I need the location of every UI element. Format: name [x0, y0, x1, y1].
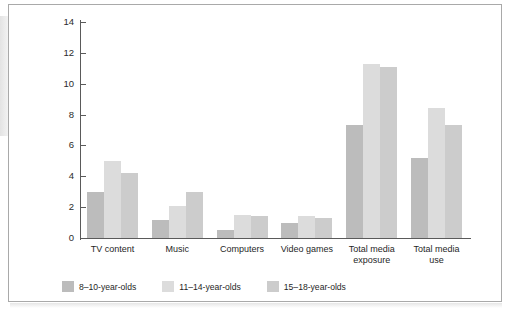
y-axis-tick-label: 0 — [0, 233, 74, 243]
bar — [186, 192, 203, 238]
bar-group-bars — [404, 22, 469, 238]
y-axis-tick-label: 6 — [0, 141, 74, 151]
legend-item[interactable]: 15–18-year-olds — [267, 281, 346, 292]
legend-swatch-icon — [267, 281, 279, 292]
category-label-line1: Total media — [387, 244, 487, 255]
legend-label: 11–14-year-olds — [179, 282, 240, 292]
y-axis-tick-label: 8 — [0, 110, 74, 120]
legend-swatch-icon — [162, 281, 174, 292]
bar — [234, 215, 251, 238]
y-axis-tick — [80, 238, 86, 239]
legend-swatch-icon — [62, 281, 74, 292]
y-axis-tick-label: 10 — [0, 79, 74, 89]
y-axis-tick-label: 14 — [0, 17, 74, 27]
bar — [87, 192, 104, 238]
bar-group — [210, 22, 275, 238]
bar-group — [80, 22, 145, 238]
legend-item[interactable]: 11–14-year-olds — [162, 281, 240, 292]
bar-group — [404, 22, 469, 238]
y-axis-tick-label: 2 — [0, 202, 74, 212]
bar-group-bars — [80, 22, 145, 238]
y-axis-tick-label: 12 — [0, 48, 74, 58]
bar — [298, 216, 315, 238]
chart-legend: 8–10-year-olds11–14-year-olds15–18-year-… — [62, 281, 346, 292]
x-axis-line — [80, 238, 471, 239]
bar-group-bars — [339, 22, 404, 238]
bar — [121, 173, 138, 238]
bar — [217, 230, 234, 238]
category-label-line2: use — [387, 255, 487, 266]
bar-group — [339, 22, 404, 238]
bar — [411, 158, 428, 238]
figure-container: Average amount of time spent with media … — [0, 0, 512, 320]
legend-label: 8–10-year-olds — [79, 282, 136, 292]
bar-group-bars — [145, 22, 210, 238]
legend-label: 15–18-year-olds — [284, 282, 346, 292]
bar-group — [275, 22, 340, 238]
bar — [152, 220, 169, 239]
plot-area — [80, 22, 469, 238]
legend-item[interactable]: 8–10-year-olds — [62, 281, 136, 292]
bar-group — [145, 22, 210, 238]
bar — [281, 223, 298, 238]
bar — [445, 125, 462, 238]
bar-group-bars — [210, 22, 275, 238]
bar — [428, 108, 445, 238]
bar — [251, 216, 268, 238]
bar — [104, 161, 121, 238]
x-axis-category-label: Total mediause — [387, 244, 487, 265]
bar — [363, 64, 380, 238]
bar — [315, 218, 332, 238]
bar — [380, 67, 397, 238]
bar-group-bars — [275, 22, 340, 238]
bar — [346, 125, 363, 238]
page-shadow-bottom — [10, 303, 502, 308]
y-axis-tick-label: 4 — [0, 172, 74, 182]
bar — [169, 206, 186, 238]
